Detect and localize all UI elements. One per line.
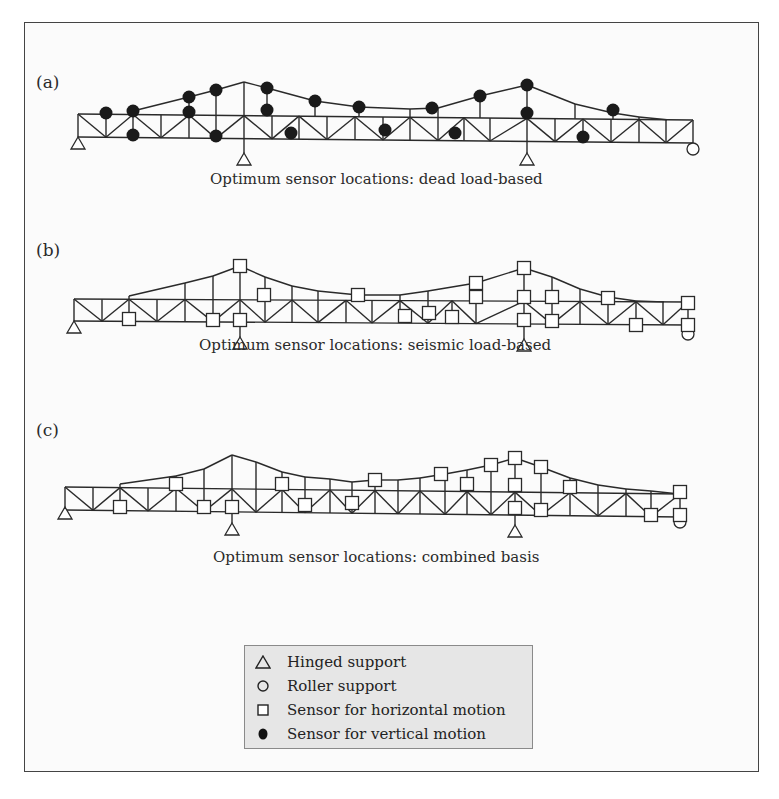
horizontal-sensor-icon: [645, 509, 658, 522]
diagonal-member: [420, 491, 445, 514]
panel-label-b: (b): [36, 240, 60, 260]
diagonal-member: [346, 300, 372, 323]
vertical-sensor-icon: [210, 84, 223, 97]
vertical-sensor-icon: [426, 102, 439, 115]
arch-chord: [176, 469, 204, 476]
diagonal-member: [74, 299, 102, 321]
hinge-support-icon: [508, 525, 522, 537]
horizontal-sensor-icon: [518, 291, 531, 304]
hinge-support-icon: [237, 153, 251, 165]
horizontal-sensor-icon: [546, 315, 559, 328]
arch-chord: [445, 470, 467, 474]
panel-label-c: (c): [36, 420, 59, 440]
horizontal-sensor-icon: [485, 459, 498, 472]
horizontal-sensor-icon: [423, 307, 436, 320]
roller-support-icon: [687, 143, 699, 155]
vertical-sensor-icon: [210, 130, 223, 143]
arch-chord: [598, 485, 626, 489]
square-icon: [255, 698, 279, 722]
triangle-icon: [255, 650, 279, 674]
diagonal-member: [666, 120, 693, 143]
horizontal-sensor-icon: [114, 501, 127, 514]
legend-label: Hinged support: [287, 653, 406, 671]
bottom-chord: [74, 321, 688, 325]
diagonal-member: [244, 116, 272, 139]
arch-chord: [315, 101, 359, 107]
arch-chord: [232, 455, 256, 462]
diagonal-member: [161, 115, 189, 138]
arch-chord: [438, 96, 480, 108]
horizontal-sensor-icon: [470, 291, 483, 304]
arch-chord: [282, 472, 305, 477]
top-chord: [74, 299, 688, 302]
vertical-sensor-icon: [183, 91, 196, 104]
horizontal-sensor-icon: [234, 260, 247, 273]
horizontal-sensor-icon: [518, 262, 531, 275]
arch-chord: [267, 88, 315, 101]
horizontal-sensor-icon: [170, 478, 183, 491]
diagonal-member: [65, 487, 93, 510]
horizontal-sensor-icon: [674, 509, 687, 522]
diagonal-member: [372, 301, 400, 323]
caption-combined: Optimum sensor locations: combined basis: [213, 548, 539, 566]
diagonal-member: [598, 493, 626, 516]
arch-chord: [636, 301, 664, 302]
vertical-sensor-icon: [607, 104, 620, 117]
vertical-sensor-icon: [261, 104, 274, 117]
horizontal-sensor-icon: [674, 486, 687, 499]
legend-label: Roller support: [287, 677, 397, 695]
arch-chord: [204, 455, 232, 469]
diagonal-member: [299, 116, 327, 139]
horizontal-sensor-icon: [446, 311, 459, 324]
diagonal-member: [410, 117, 438, 140]
arch-chord: [552, 277, 580, 289]
vertical-sensor-icon: [127, 105, 140, 118]
hinge-support-icon: [520, 153, 534, 165]
arch-chord: [133, 97, 189, 111]
horizontal-sensor-icon: [369, 474, 382, 487]
horizontal-sensor-icon: [123, 313, 136, 326]
filled-circle-icon: [255, 722, 279, 746]
vertical-sensor-icon: [100, 107, 113, 120]
horizontal-sensor-icon: [352, 289, 365, 302]
hinge-support-icon: [71, 137, 85, 149]
arch-chord: [330, 479, 352, 482]
diagonal-member: [292, 300, 318, 323]
legend-item-vertical-sensor: Sensor for vertical motion: [255, 722, 532, 746]
diagonal-member: [467, 492, 491, 515]
horizontal-sensor-icon: [299, 499, 312, 512]
horizontal-sensor-icon: [682, 297, 695, 310]
vertical-sensor-icon: [521, 79, 534, 92]
diagonal-member: [464, 118, 490, 141]
horizontal-sensor-icon: [399, 310, 412, 323]
vertical-sensor-icon: [474, 90, 487, 103]
horizontal-sensor-icon: [682, 319, 695, 332]
vertical-sensor-icon: [309, 95, 322, 108]
arch-chord: [120, 476, 176, 484]
vertical-sensor-icon: [261, 82, 274, 95]
legend-label: Sensor for vertical motion: [287, 725, 486, 743]
horizontal-sensor-icon: [546, 291, 559, 304]
diagonal-member: [570, 493, 598, 516]
diagonal-member: [375, 491, 398, 514]
horizontal-sensor-icon: [518, 314, 531, 327]
vertical-sensor-icon: [577, 131, 590, 144]
arch-chord: [480, 85, 527, 96]
top-chord: [78, 114, 693, 120]
vertical-sensor-icon: [183, 106, 196, 119]
horizontal-sensor-icon: [535, 504, 548, 517]
legend-label: Sensor for horizontal motion: [287, 701, 506, 719]
diagonal-member: [398, 491, 420, 514]
horizontal-sensor-icon: [509, 452, 522, 465]
legend-item-roller: Roller support: [255, 674, 532, 698]
horizontal-sensor-icon: [276, 478, 289, 491]
horizontal-sensor-icon: [198, 501, 211, 514]
horizontal-sensor-icon: [564, 481, 577, 494]
horizontal-sensor-icon: [535, 461, 548, 474]
diagonal-member: [611, 119, 639, 142]
arch-chord: [398, 478, 420, 480]
vertical-sensor-icon: [127, 129, 140, 142]
diagonal-member: [318, 300, 346, 322]
horizontal-sensor-icon: [435, 468, 448, 481]
diagonal-member: [445, 492, 467, 515]
